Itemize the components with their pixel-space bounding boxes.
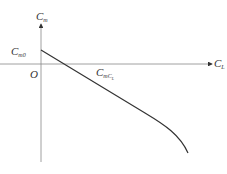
x-axis-label: CL	[214, 57, 225, 70]
slope-label: CmCL	[96, 66, 115, 81]
origin-label: O	[30, 68, 38, 80]
y-axis-label: Cm	[36, 10, 48, 23]
intercept-label: Cm0	[11, 45, 26, 58]
diagram-canvas: Cm CL O Cm0 CmCL	[0, 0, 227, 174]
moment-curve	[41, 50, 188, 153]
